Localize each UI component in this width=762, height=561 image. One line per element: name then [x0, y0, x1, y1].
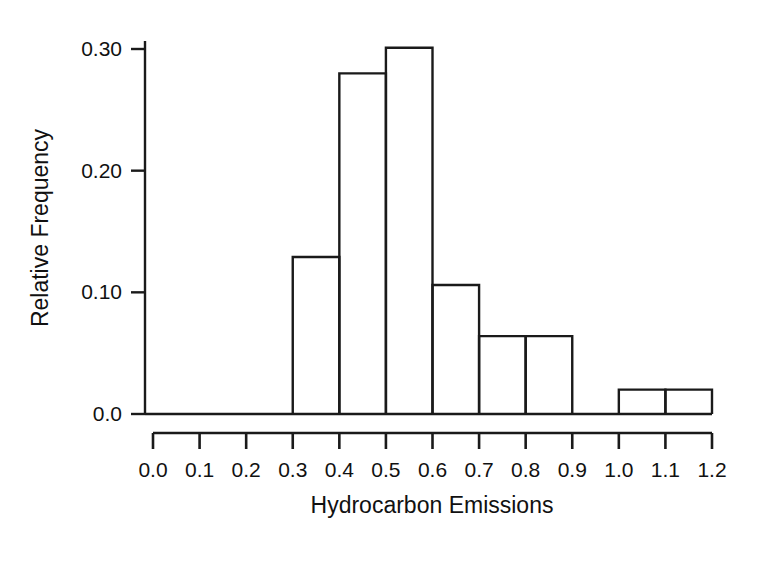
x-tick-label: 1.0	[604, 458, 633, 481]
x-tick-label: 0.1	[185, 458, 214, 481]
y-tick-label: 0.10	[81, 280, 122, 303]
x-tick-label: 0.2	[232, 458, 261, 481]
x-tick-label: 0.5	[371, 458, 400, 481]
x-axis-title: Hydrocarbon Emissions	[311, 492, 554, 518]
x-tick-label: 0.6	[418, 458, 447, 481]
x-tick-label: 1.1	[651, 458, 680, 481]
y-tick-label: 0.30	[81, 37, 122, 60]
x-tick-label: 0.8	[511, 458, 540, 481]
histogram-figure: Relative Frequency 0.00.100.200.30 0.00.…	[0, 0, 762, 561]
x-tick-label: 0.3	[278, 458, 307, 481]
y-axis-title: Relative Frequency	[27, 128, 53, 327]
x-tick-label: 0.0	[138, 458, 167, 481]
x-tick-label: 0.9	[558, 458, 587, 481]
x-tick-label: 1.2	[697, 458, 726, 481]
y-tick-label: 0.0	[93, 402, 122, 425]
chart-canvas: Relative Frequency 0.00.100.200.30 0.00.…	[0, 0, 762, 561]
x-tick-label: 0.4	[325, 458, 355, 481]
x-tick-label: 0.7	[464, 458, 493, 481]
y-tick-label: 0.20	[81, 159, 122, 182]
